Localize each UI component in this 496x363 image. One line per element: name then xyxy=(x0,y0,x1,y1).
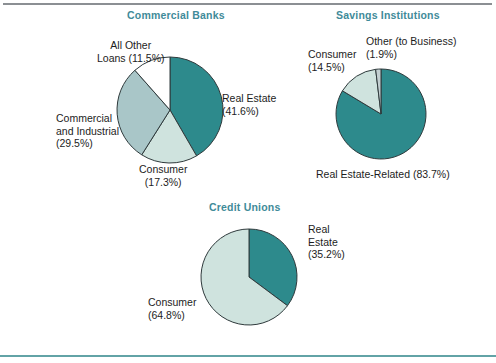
pie-slice-label: Consumer(17.3%) xyxy=(139,163,187,188)
pie-slice-label: Commercialand Industrial(29.5%) xyxy=(56,112,119,150)
pie-slice-label: All OtherLoans (11.5%) xyxy=(97,39,165,64)
pie-label-line: Real xyxy=(308,223,345,236)
figure-canvas: Commercial Banks Real Estate(41.6%)Consu… xyxy=(0,0,496,363)
pie-label-line: Real Estate-Related (83.7%) xyxy=(316,168,450,181)
chart-title-commercial-banks: Commercial Banks xyxy=(127,9,225,21)
pie-label-line: (14.5%) xyxy=(308,61,356,74)
top-divider-rule xyxy=(3,3,492,5)
pie-label-line: Other (to Business) xyxy=(366,35,456,48)
pie-label-line: Consumer xyxy=(139,163,187,176)
pie-label-line: and Industrial xyxy=(56,125,119,138)
chart-title-savings-institutions: Savings Institutions xyxy=(336,9,440,21)
pie-label-line: (17.3%) xyxy=(139,176,187,189)
pie-label-line: Commercial xyxy=(56,112,119,125)
chart-title-credit-unions: Credit Unions xyxy=(209,201,280,213)
pie-slice-label: Real Estate-Related (83.7%) xyxy=(316,168,450,181)
pie-label-line: All Other xyxy=(97,39,165,52)
pie-slice-label: Real Estate(41.6%) xyxy=(222,92,276,117)
pie-label-line: Consumer xyxy=(148,296,196,309)
pie-slice-label: RealEstate(35.2%) xyxy=(308,223,345,261)
pie-label-line: (35.2%) xyxy=(308,248,345,261)
pie-credit-unions xyxy=(197,225,301,329)
pie-savings-institutions xyxy=(332,65,430,163)
pie-commercial-banks xyxy=(113,53,227,167)
pie-label-line: Real Estate xyxy=(222,92,276,105)
pie-label-line: Loans (11.5%) xyxy=(97,52,165,65)
bottom-divider-rule xyxy=(0,355,496,357)
pie-label-line: (41.6%) xyxy=(222,105,276,118)
pie-label-line: Consumer xyxy=(308,48,356,61)
pie-label-line: (29.5%) xyxy=(56,137,119,150)
pie-label-line: (64.8%) xyxy=(148,309,196,322)
pie-label-line: Estate xyxy=(308,236,345,249)
pie-label-line: (1.9%) xyxy=(366,48,456,61)
pie-slice-label: Consumer(14.5%) xyxy=(308,48,356,73)
pie-slice-label: Other (to Business)(1.9%) xyxy=(366,35,456,60)
pie-slice-label: Consumer(64.8%) xyxy=(148,296,196,321)
